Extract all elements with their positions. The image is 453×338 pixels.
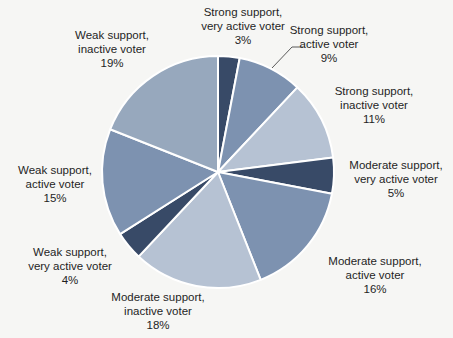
- slice-label-activity: active voter: [328, 268, 421, 282]
- slice-label-pct_label: 18%: [111, 318, 204, 332]
- slice-label-pct_label: 4%: [28, 273, 112, 287]
- pie-chart-figure: Strong support,very active voter3%Strong…: [0, 0, 453, 338]
- slice-label-group: Moderate support,: [111, 290, 204, 304]
- slice-label: Moderate support,very active voter5%: [349, 158, 442, 200]
- slice-label-pct_label: 5%: [349, 186, 442, 200]
- slice-label-pct_label: 19%: [75, 56, 149, 70]
- slice-label-group: Weak support,: [75, 28, 149, 42]
- slice-label-group: Weak support,: [18, 163, 92, 177]
- slice-label: Strong support,very active voter3%: [201, 5, 285, 47]
- slice-label: Weak support,inactive voter19%: [75, 28, 149, 70]
- slice-label-group: Moderate support,: [349, 158, 442, 172]
- slice-label-pct_label: 3%: [201, 33, 285, 47]
- slice-label-group: Moderate support,: [328, 254, 421, 268]
- slice-label: Moderate support,active voter16%: [328, 254, 421, 296]
- slice-label-group: Weak support,: [28, 245, 112, 259]
- slice-label-activity: very active voter: [201, 19, 285, 33]
- slice-label-activity: very active voter: [349, 172, 442, 186]
- slice-label-activity: very active voter: [28, 259, 112, 273]
- slice-label-pct_label: 9%: [290, 51, 369, 65]
- slice-label-group: Strong support,: [290, 23, 369, 37]
- slice-label: Weak support,active voter15%: [18, 163, 92, 205]
- slice-label-group: Strong support,: [335, 84, 414, 98]
- slice-label-pct_label: 11%: [335, 112, 414, 126]
- slice-label-activity: active voter: [18, 177, 92, 191]
- slice-label-activity: active voter: [290, 37, 369, 51]
- slice-label-activity: inactive voter: [111, 304, 204, 318]
- slice-label-activity: inactive voter: [335, 98, 414, 112]
- slice-label-group: Strong support,: [201, 5, 285, 19]
- slice-label-activity: inactive voter: [75, 42, 149, 56]
- slice-label-pct_label: 16%: [328, 282, 421, 296]
- slice-label: Weak support,very active voter4%: [28, 245, 112, 287]
- slice-label: Strong support,active voter9%: [290, 23, 369, 65]
- slice-label: Strong support,inactive voter11%: [335, 84, 414, 126]
- slice-label: Moderate support,inactive voter18%: [111, 290, 204, 332]
- slice-label-pct_label: 15%: [18, 191, 92, 205]
